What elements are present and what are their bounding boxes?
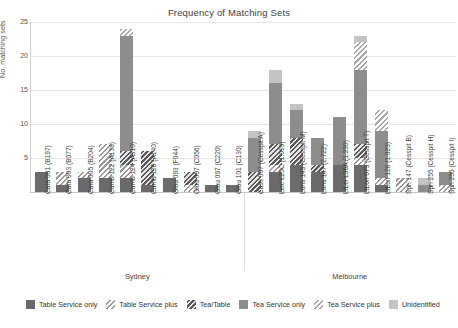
legend-swatch-icon	[314, 300, 323, 309]
gridline	[31, 158, 456, 159]
x-tick-label: Glou 101 (C130)	[235, 145, 242, 194]
y-tick-label: 10	[2, 120, 28, 127]
gridline	[31, 22, 456, 23]
x-tick-label: LtLon 128 (1.023)	[384, 142, 391, 194]
legend-swatch-icon	[389, 300, 398, 309]
legend-label: Tea/Table	[200, 300, 231, 309]
bar-segment-tea_only[interactable]	[120, 36, 133, 152]
chart-title: Frequency of Matching Sets	[0, 7, 458, 18]
legend-label: Tea Service plus	[327, 300, 380, 309]
legend-item[interactable]: Tea/Table	[187, 300, 231, 309]
legend-swatch-icon	[26, 300, 35, 309]
x-tick-label: Glou 097 (C220)	[214, 145, 221, 194]
gridline	[31, 124, 456, 125]
legend-label: Table Service plus	[119, 300, 177, 309]
x-tick-label: LtLon 073 (Cesspit T)	[363, 131, 370, 194]
group-label-sydney: Sydney	[31, 272, 244, 281]
bar-segment-unid[interactable]	[290, 104, 303, 111]
x-tick-label: Cumb 124 (A310)	[129, 142, 136, 194]
bar-segment-tea_only[interactable]	[269, 83, 282, 144]
x-tick-label: Glou 093 (F044)	[172, 146, 179, 194]
y-tick-label: 5	[2, 154, 28, 161]
legend-item[interactable]: Table Service plus	[106, 300, 177, 309]
bar-segment-tea_plus[interactable]	[354, 42, 367, 69]
legend-item[interactable]: Table Service only	[26, 300, 97, 309]
bar-segment-tea_plus[interactable]	[375, 110, 388, 130]
x-tick-label: Lons 143 (Cesspit M)	[299, 131, 306, 194]
x-tick-label: Cara 001 (B197)	[44, 145, 51, 194]
x-tick-label: Cara 005 (B204)	[87, 145, 94, 194]
x-tick-label: Cara 003 (B077)	[65, 145, 72, 194]
x-tick-label: Spri 255 (Cesspit I)	[448, 138, 455, 194]
x-tick-label: Leic L25C (1.010)	[278, 142, 285, 194]
legend-swatch-icon	[106, 300, 115, 309]
x-tick-label: Lons 147 (2.722)	[320, 144, 327, 194]
bar-segment-tea_plus[interactable]	[120, 29, 133, 36]
x-tick-label: Cumb 126 (A140)	[150, 142, 157, 194]
y-tick-label: 20	[2, 52, 28, 59]
bar-segment-unid[interactable]	[354, 36, 367, 43]
chart-legend: Table Service onlyTable Service plusTea/…	[26, 296, 436, 312]
bar-segment-unid[interactable]	[269, 70, 282, 84]
x-tick-label: Cumb 122 (A138)	[108, 142, 115, 194]
legend-swatch-icon	[239, 300, 248, 309]
x-tick-label: Cass 007 (Cesspit A)	[257, 132, 264, 194]
legend-label: Tea Service only	[252, 300, 305, 309]
y-tick-label: 15	[2, 86, 28, 93]
legend-label: Table Service only	[39, 300, 97, 309]
y-axis-ticks: 510152025	[0, 0, 28, 214]
group-label-melbourne: Melbourne	[244, 272, 457, 281]
gridline	[31, 56, 456, 57]
chart-container: Frequency of Matching Sets No. matching …	[0, 0, 458, 328]
y-tick-label: 25	[2, 18, 28, 25]
legend-item[interactable]: Unidentified	[389, 300, 440, 309]
legend-item[interactable]: Tea Service only	[239, 300, 305, 309]
x-tick-label: Spri 147 (Cesspit B)	[405, 135, 412, 194]
gridline	[31, 90, 456, 91]
x-tick-label: LtLei L36A (1.230)	[342, 140, 349, 194]
x-tick-label: Glou 097 (C056)	[193, 145, 200, 194]
x-tick-label: Spri 255 (Cesspit H)	[427, 135, 434, 194]
group-separator	[244, 193, 245, 271]
legend-swatch-icon	[187, 300, 196, 309]
plot-area	[31, 22, 456, 192]
legend-label: Unidentified	[402, 300, 440, 309]
legend-item[interactable]: Tea Service plus	[314, 300, 380, 309]
